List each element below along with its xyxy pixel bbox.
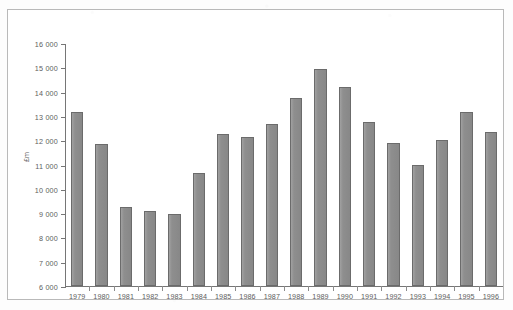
bar (95, 144, 107, 286)
plot-area: 16 00015 00014 00013 00012 00011 00010 0… (65, 44, 503, 287)
x-axis-tick (333, 286, 334, 291)
bar (412, 165, 424, 287)
y-axis-tick (61, 117, 66, 118)
bar (314, 69, 326, 286)
x-axis-tick-label: 1982 (142, 292, 158, 301)
x-axis-tick-label: 1992 (385, 292, 401, 301)
bar (168, 214, 180, 286)
y-axis-tick-label: 13 000 (35, 112, 58, 121)
y-axis-tick-label: 8 000 (39, 234, 58, 243)
y-axis-tick-label: 6 000 (39, 283, 58, 292)
bar (290, 98, 302, 286)
x-axis-tick-label: 1991 (361, 292, 377, 301)
x-axis-tick (211, 286, 212, 291)
bar (485, 132, 497, 286)
x-axis-tick (260, 286, 261, 291)
x-axis-tick-label: 1988 (288, 292, 304, 301)
x-axis-tick (357, 286, 358, 291)
chart-frame: £m 16 00015 00014 00013 00012 00011 0001… (7, 9, 504, 300)
y-axis-tick (61, 263, 66, 264)
y-axis-tick-label: 7 000 (39, 258, 58, 267)
x-axis-tick (235, 286, 236, 291)
y-axis-tick (61, 287, 66, 288)
x-axis-tick-label: 1979 (69, 292, 85, 301)
x-axis-tick-label: 1984 (191, 292, 207, 301)
x-axis-tick (138, 286, 139, 291)
bar (217, 134, 229, 286)
bar (436, 140, 448, 286)
x-axis-tick (479, 286, 480, 291)
y-axis-tick (61, 238, 66, 239)
x-axis-tick-label: 1989 (312, 292, 328, 301)
x-axis-tick-label: 1993 (410, 292, 426, 301)
x-axis-tick-label: 1986 (239, 292, 255, 301)
x-axis-tick (162, 286, 163, 291)
bar (241, 137, 253, 286)
bar (266, 124, 278, 286)
bar (144, 211, 156, 286)
x-axis-tick (381, 286, 382, 291)
x-axis-tick-label: 1994 (434, 292, 450, 301)
bar (193, 173, 205, 286)
x-axis-tick-label: 1980 (93, 292, 109, 301)
y-axis-tick-label: 15 000 (35, 64, 58, 73)
y-axis-tick-label: 16 000 (35, 40, 58, 49)
y-axis-tick-label: 12 000 (35, 137, 58, 146)
x-axis-tick (430, 286, 431, 291)
figure-canvas: £m 16 00015 00014 00013 00012 00011 0001… (0, 0, 513, 310)
x-axis-tick (187, 286, 188, 291)
y-axis-tick (61, 68, 66, 69)
bar (120, 207, 132, 286)
x-axis-tick-label: 1983 (166, 292, 182, 301)
x-axis-tick-label: 1985 (215, 292, 231, 301)
x-axis-tick-label: 1996 (483, 292, 499, 301)
y-axis-tick-label: 14 000 (35, 88, 58, 97)
bar (339, 87, 351, 286)
y-axis-tick-label: 11 000 (35, 161, 58, 170)
y-axis-tick-label: 10 000 (35, 185, 58, 194)
x-axis-tick (89, 286, 90, 291)
y-axis-tick (61, 166, 66, 167)
x-axis-tick (308, 286, 309, 291)
x-axis-tick (284, 286, 285, 291)
x-axis-tick (114, 286, 115, 291)
bar (460, 112, 472, 286)
x-axis-tick-label: 1995 (458, 292, 474, 301)
y-axis-title: £m (22, 152, 31, 162)
y-axis-tick (61, 93, 66, 94)
x-axis-tick-label: 1987 (264, 292, 280, 301)
y-axis-tick-label: 9 000 (39, 210, 58, 219)
x-axis-tick (406, 286, 407, 291)
x-axis-tick-label: 1990 (337, 292, 353, 301)
y-axis-tick (61, 214, 66, 215)
x-axis-tick-label: 1981 (118, 292, 134, 301)
bar (71, 112, 83, 286)
x-axis-tick (454, 286, 455, 291)
y-axis-tick (61, 141, 66, 142)
y-axis-tick (61, 190, 66, 191)
bar (363, 122, 375, 286)
y-axis-tick (61, 44, 66, 45)
bar (387, 143, 399, 286)
